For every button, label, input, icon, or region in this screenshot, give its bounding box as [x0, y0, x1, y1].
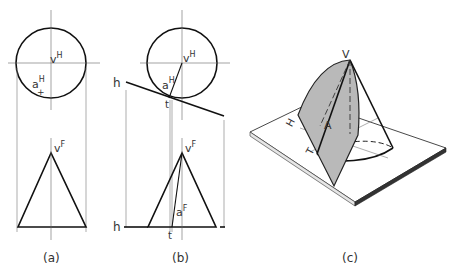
panel-a: vH aH + vF (a) — [8, 10, 100, 265]
label-t-top: t — [165, 99, 169, 110]
cone-front-view — [18, 153, 86, 227]
label-h-top: h — [113, 76, 121, 90]
caption-b: (b) — [172, 251, 189, 265]
label-t-front: t — [168, 230, 172, 241]
label-vH: vH — [50, 51, 63, 66]
caption-c: (c) — [342, 251, 358, 265]
label-vF: vF — [54, 140, 66, 155]
label-aH: aH — [162, 76, 175, 92]
label-aF: aF — [176, 204, 188, 219]
plane-trace-top — [126, 82, 224, 116]
caption-a: (a) — [43, 251, 60, 265]
panel-b: h vH aH t vF aF h t (b) — [113, 10, 230, 265]
cone-tangent-plane-figure: vH aH + vF (a) h vH aH t vF aF h t (b) — [0, 0, 450, 267]
label-A: A — [324, 119, 332, 132]
label-vF: vF — [185, 140, 197, 155]
label-V: V — [342, 48, 350, 61]
label-h-front: h — [113, 220, 121, 234]
point-a-marker: + — [37, 87, 45, 97]
panel-c: V H A T (c) — [250, 48, 446, 265]
